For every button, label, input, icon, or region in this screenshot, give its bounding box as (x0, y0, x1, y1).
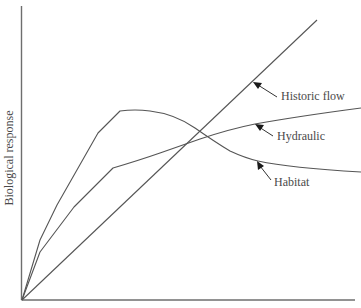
arrow-icon (255, 124, 264, 131)
hydraulic-label: Hydraulic (277, 129, 325, 143)
series-lines (22, 20, 361, 300)
arrow-icon (253, 82, 262, 89)
historic-flow-line (22, 20, 317, 300)
historic-flow-leader (258, 85, 277, 97)
y-axis-label: Biological response (2, 111, 16, 206)
annotation-historic-flow: Historic flow (253, 82, 345, 103)
habitat-leader (260, 166, 271, 180)
axes (22, 6, 356, 300)
response-chart: Biological response Historic flow Hydrau… (0, 0, 361, 308)
habitat-label: Habitat (274, 175, 310, 189)
annotation-hydraulic: Hydraulic (255, 124, 325, 143)
historic-flow-label: Historic flow (281, 89, 345, 103)
